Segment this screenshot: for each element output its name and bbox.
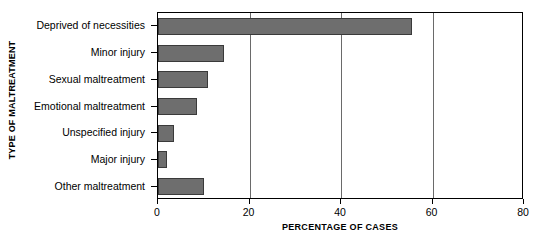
x-axis-tick (432, 199, 433, 204)
x-axis-tick-label: 0 (154, 206, 160, 218)
x-axis-tick-label: 60 (426, 206, 438, 218)
y-axis-title: TYPE OF MALTREATMENT (0, 0, 24, 200)
x-axis-tick (249, 199, 250, 204)
bar (158, 71, 208, 88)
x-axis-tick-label: 40 (334, 206, 346, 218)
x-axis-ticks (157, 199, 523, 205)
bar (158, 125, 174, 142)
x-axis-title: PERCENTAGE OF CASES (157, 222, 523, 232)
bar-chart: TYPE OF MALTREATMENT Deprived of necessi… (0, 0, 537, 247)
bar (158, 18, 412, 35)
x-axis-tick-label: 20 (243, 206, 255, 218)
gridline (433, 13, 434, 198)
category-axis-labels: Deprived of necessitiesMinor injurySexua… (24, 12, 151, 199)
bar (158, 45, 224, 62)
category-label: Minor injury (91, 46, 145, 58)
x-axis-tick-labels: 020406080 (157, 206, 523, 220)
category-label: Other maltreatment (55, 180, 145, 192)
bar (158, 178, 204, 195)
x-axis-tick (523, 199, 524, 204)
bar (158, 151, 167, 168)
category-label: Emotional maltreatment (34, 100, 145, 112)
bar (158, 98, 197, 115)
category-label: Sexual maltreatment (49, 73, 145, 85)
category-label: Deprived of necessities (36, 19, 145, 31)
category-label: Unspecified injury (62, 126, 145, 138)
category-label: Major injury (91, 153, 145, 165)
plot-area (157, 12, 523, 199)
x-axis-tick-label: 80 (517, 206, 529, 218)
gridline (341, 13, 342, 198)
x-axis-tick (157, 199, 158, 204)
gridline (250, 13, 251, 198)
x-axis-tick (340, 199, 341, 204)
y-axis-title-text: TYPE OF MALTREATMENT (7, 41, 17, 160)
